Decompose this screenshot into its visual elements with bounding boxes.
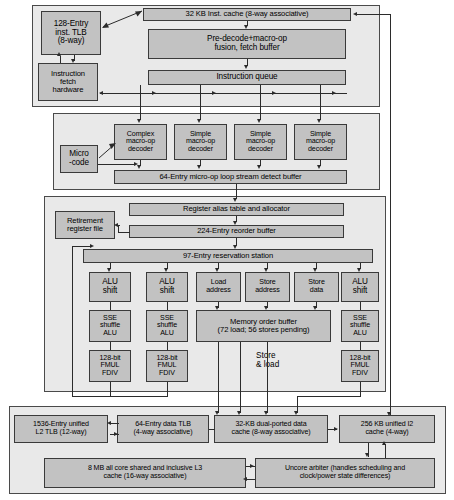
box-decoder-simple-1[interactable]: Simple macro-op decoder [174,124,227,160]
box-instruction-fetch-hardware[interactable]: Instruction fetch hardware [38,63,98,101]
box-uncore-arbiter[interactable]: Uncore arbiter (handles scheduling and c… [255,458,435,488]
box-exec-fmul-fdiv-1[interactable]: 128-bit FMUL FDIV [89,350,131,382]
box-exec-load-address[interactable]: Load address [196,272,241,302]
box-decoder-complex[interactable]: Complex macro-op decoder [114,124,167,160]
box-exec-sse-shuffle-alu-2[interactable]: SSE shuffle ALU [146,310,188,342]
box-reorder-buffer[interactable]: 224-Entry reorder buffer [129,225,344,238]
box-data-tlb[interactable]: 64-Entry data TLB (4-way associative) [117,415,209,443]
box-exec-store-address[interactable]: Store address [245,272,290,302]
box-register-alias-table[interactable]: Register alias table and allocator [129,203,344,216]
box-microcode[interactable]: Micro -code [60,145,98,173]
box-exec-alu-shift-3[interactable]: ALU shift [341,272,379,302]
box-retirement-register-file[interactable]: Retirement register file [55,211,115,239]
connector-microcode-complex-decoder [98,140,118,160]
box-l2-cache[interactable]: 256 KB unified I2 cache (4-way) [339,415,435,443]
box-instruction-queue[interactable]: Instruction queue [148,70,346,85]
box-l3-cache[interactable]: 8 MB all core shared and inclusive L3 ca… [44,458,246,488]
box-exec-sse-shuffle-alu-1[interactable]: SSE shuffle ALU [89,310,131,342]
connector-tlb-icache [100,8,146,30]
box-exec-fmul-fdiv-3[interactable]: 128-bit FMUL FDIV [341,350,379,382]
box-inst-cache[interactable]: 32 KB Inst. cache (8-way associative) [143,8,351,21]
diagram-canvas: 128-Entry inst. TLB (8-way) Instruction … [0,0,454,500]
box-exec-alu-shift-1[interactable]: ALU shift [89,272,131,302]
label-store-and-load: Store & load [256,351,316,369]
box-reservation-station[interactable]: 97-Entry reservation station [83,249,373,263]
box-memory-order-buffer[interactable]: Memory order buffer (72 load; 56 stores … [196,310,331,342]
box-exec-store-data[interactable]: Store data [294,272,339,302]
box-exec-sse-shuffle-alu-3[interactable]: SSE shuffle ALU [341,310,379,342]
box-exec-fmul-fdiv-2[interactable]: 128-bit FMUL FDIV [146,350,188,382]
box-predecode-fetch-buffer[interactable]: Pre-decode+macro-op fusion, fetch buffer [148,29,346,59]
box-decoder-simple-3[interactable]: Simple macro-op decoder [294,124,347,160]
box-loop-stream-detect-buffer[interactable]: 64-Entry micro-op loop stream detect buf… [114,170,347,184]
box-exec-alu-shift-2[interactable]: ALU shift [146,272,188,302]
box-decoder-simple-2[interactable]: Simple macro-op decoder [234,124,287,160]
box-data-cache[interactable]: 32-KB dual-ported data cache (8-way asso… [214,415,328,443]
box-l2-tlb[interactable]: 1536-Entry unified L2 TLB (12-way) [14,415,108,443]
box-inst-tlb[interactable]: 128-Entry inst. TLB (8-way) [41,11,101,55]
